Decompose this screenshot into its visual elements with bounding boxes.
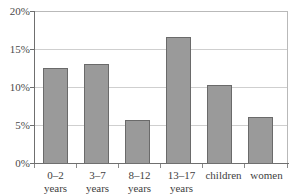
bar-0-2-years <box>43 68 68 164</box>
x-axis-label-line1: 3–7 <box>76 169 119 182</box>
x-axis-tick-mark-1 <box>76 164 77 168</box>
y-axis-tick-label-15: 15% <box>0 44 30 55</box>
y-axis-tick-label-0: 0% <box>0 158 30 169</box>
bar-13-17-years <box>166 37 191 164</box>
y-axis-tick-label-10: 10% <box>0 82 30 93</box>
y-axis-tick-label-5: 5% <box>0 120 30 131</box>
gridline-20 <box>35 11 287 12</box>
x-axis-label-13-17-years: 13–17 years <box>160 169 203 195</box>
x-axis-tick-mark-5 <box>244 164 245 168</box>
x-axis-tick-mark-3 <box>160 164 161 168</box>
bar-chart: 20% 15% 10% 5% 0% 0–2 years 3–7 years 8–… <box>0 0 296 195</box>
x-axis-tick-mark-4 <box>202 164 203 168</box>
gridline-10 <box>35 87 287 88</box>
x-axis-label-line2: years <box>34 182 77 195</box>
bar-children <box>207 85 232 164</box>
x-axis-label-line2: years <box>118 182 161 195</box>
x-axis-tick-mark-2 <box>118 164 119 168</box>
x-axis-tick-mark-6 <box>287 164 288 168</box>
x-axis-label-line1: 13–17 <box>160 169 203 182</box>
gridline-15 <box>35 49 287 50</box>
x-axis-label-line2: years <box>160 182 203 195</box>
x-axis-label-line1: women <box>244 169 289 182</box>
x-axis-label-line1: 0–2 <box>34 169 77 182</box>
x-axis-tick-mark-0 <box>34 164 35 168</box>
bar-3-7-years <box>84 64 109 164</box>
bar-8-12-years <box>125 120 150 164</box>
x-axis-label-women: women <box>244 169 289 182</box>
bar-women <box>248 117 273 164</box>
x-axis-label-children: children <box>202 169 245 182</box>
y-axis-tick-label-20: 20% <box>0 6 30 17</box>
x-axis-label-3-7-years: 3–7 years <box>76 169 119 195</box>
x-axis-label-line2: years <box>76 182 119 195</box>
x-axis-label-line1: children <box>202 169 245 182</box>
x-axis-label-line1: 8–12 <box>118 169 161 182</box>
x-axis-label-8-12-years: 8–12 years <box>118 169 161 195</box>
x-axis-label-0-2-years: 0–2 years <box>34 169 77 195</box>
